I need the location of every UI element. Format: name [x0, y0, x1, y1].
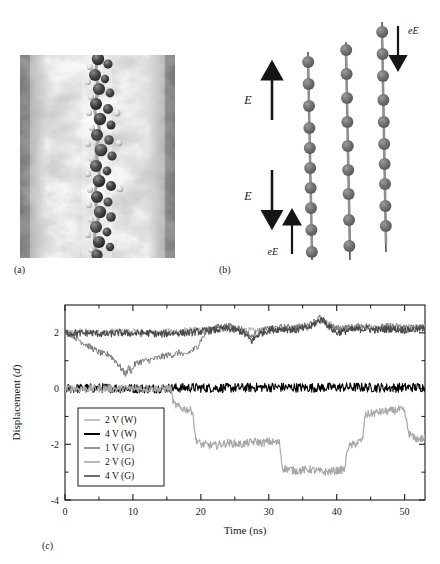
y-axis-title: Displacement (d)	[10, 364, 23, 440]
panel-a-label: (a)	[14, 264, 25, 275]
force-label-upper-right: eE	[408, 25, 419, 36]
y-tick-label: 2	[54, 327, 59, 338]
bead-chain-3	[376, 22, 392, 252]
legend-label: 2 V (G)	[105, 457, 134, 468]
field-label-lower: E	[243, 189, 252, 203]
x-tick-label: 30	[264, 506, 274, 517]
force-label-lower-left: eE	[267, 246, 278, 257]
legend-label: 1 V (G)	[105, 443, 134, 454]
x-tick-label: 20	[196, 506, 206, 517]
figure-container: (a) E E	[0, 0, 440, 564]
y-tick-label: -2	[51, 439, 59, 450]
panel-b-label: (b)	[219, 264, 231, 275]
field-label-upper: E	[243, 93, 252, 107]
panel-b-schematic: E E eE eE	[186, 12, 438, 260]
panel-c-chart: 0102030405020-2-4Time (ns)Displacement (…	[0, 288, 440, 538]
legend-label: 4 V (G)	[105, 471, 134, 482]
x-tick-label: 0	[63, 506, 68, 517]
x-tick-label: 40	[332, 506, 342, 517]
chart-legend: 2 V (W)4 V (W)1 V (G)2 V (G)4 V (G)	[78, 408, 164, 486]
legend-label: 4 V (W)	[105, 429, 136, 440]
legend-label: 2 V (W)	[105, 415, 136, 426]
panel-a-molecular-rendering	[20, 55, 175, 258]
y-tick-label: -4	[51, 495, 59, 506]
x-tick-label: 10	[128, 506, 138, 517]
x-tick-label: 50	[400, 506, 410, 517]
panel-c-label: (c)	[42, 540, 53, 551]
y-tick-label: 0	[54, 383, 59, 394]
x-axis-title: Time (ns)	[224, 524, 267, 537]
bead-chain-1	[302, 52, 318, 260]
bead-chain-2	[340, 42, 355, 260]
